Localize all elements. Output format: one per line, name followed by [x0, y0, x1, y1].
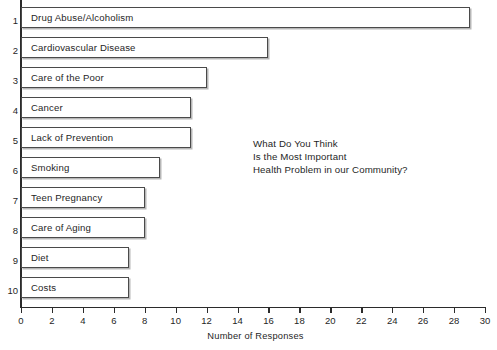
rank-label: 10 — [0, 280, 18, 301]
rank-label: 1 — [0, 10, 18, 31]
x-tick-label: 8 — [134, 315, 156, 327]
x-tick — [392, 307, 393, 313]
x-axis-title: Number of Responses — [0, 331, 497, 341]
bar-category-label: Costs — [31, 277, 56, 298]
annotation-line-2: Is the Most Important — [253, 150, 408, 163]
x-tick — [52, 307, 53, 313]
annotation-line-3: Health Problem in our Community? — [253, 163, 408, 176]
x-tick — [145, 307, 146, 313]
annotation-line-1: What Do You Think — [253, 137, 408, 150]
bar-category-label: Cardiovascular Disease — [31, 37, 136, 58]
bar-category-label: Drug Abuse/Alcoholism — [31, 7, 133, 28]
chart-annotation: What Do You Think Is the Most Important … — [253, 137, 408, 177]
bar-category-label: Teen Pregnancy — [31, 187, 102, 208]
x-tick-label: 18 — [288, 315, 310, 327]
x-tick-label: 28 — [443, 315, 465, 327]
bar-category-label: Care of Aging — [31, 217, 91, 238]
x-tick — [238, 307, 239, 313]
rank-label: 2 — [0, 40, 18, 61]
rank-label: 3 — [0, 70, 18, 91]
x-tick — [423, 307, 424, 313]
x-tick-label: 24 — [381, 315, 403, 327]
x-tick-label: 6 — [103, 315, 125, 327]
x-tick — [207, 307, 208, 313]
rank-label: 9 — [0, 250, 18, 271]
bar-category-label: Diet — [31, 247, 49, 268]
x-tick — [114, 307, 115, 313]
x-tick — [330, 307, 331, 313]
x-tick-label: 30 — [474, 315, 496, 327]
x-tick — [454, 307, 455, 313]
x-tick-label: 4 — [72, 315, 94, 327]
x-tick — [485, 307, 486, 313]
x-tick — [361, 307, 362, 313]
rank-label: 6 — [0, 160, 18, 181]
x-tick-label: 0 — [10, 315, 32, 327]
x-tick — [176, 307, 177, 313]
rank-label: 7 — [0, 190, 18, 211]
bar-category-label: Lack of Prevention — [31, 127, 113, 148]
x-tick-label: 2 — [41, 315, 63, 327]
x-tick-label: 12 — [196, 315, 218, 327]
bar-category-label: Care of the Poor — [31, 67, 104, 88]
x-tick-label: 10 — [165, 315, 187, 327]
x-tick — [268, 307, 269, 313]
bar-category-label: Smoking — [31, 157, 69, 178]
x-tick-label: 26 — [412, 315, 434, 327]
x-axis-title-text: Number of Responses — [207, 331, 303, 341]
x-tick-label: 22 — [350, 315, 372, 327]
bar-chart: 1 Drug Abuse/Alcoholism 2 Cardiovascular… — [0, 0, 497, 350]
x-tick-label: 14 — [227, 315, 249, 327]
x-tick — [83, 307, 84, 313]
x-tick-label: 20 — [319, 315, 341, 327]
x-axis-line — [20, 307, 485, 309]
rank-label: 4 — [0, 100, 18, 121]
rank-label: 5 — [0, 130, 18, 151]
rank-label: 8 — [0, 220, 18, 241]
x-tick — [21, 307, 22, 313]
x-tick-label: 16 — [257, 315, 279, 327]
bar-category-label: Cancer — [31, 97, 63, 118]
x-tick — [299, 307, 300, 313]
